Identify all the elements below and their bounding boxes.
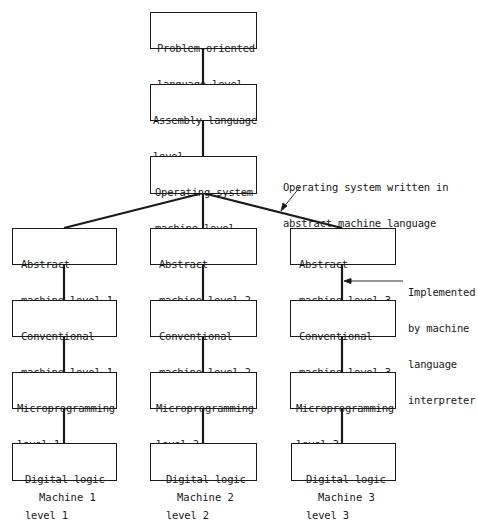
annotation-line: language [408, 358, 475, 370]
interpreter-annotation: Implemented by machine language interpre… [408, 262, 475, 418]
box-line: level 2 [166, 509, 256, 521]
box-line: Assembly language [153, 114, 256, 126]
microprogramming-level-2-box: Microprogramming level 2 [150, 372, 257, 409]
machine-3-label: Machine 3 [318, 491, 375, 503]
machine-1-label: Machine 1 [39, 491, 96, 503]
os-written-annotation: Operating system written in abstract mac… [283, 157, 448, 241]
digital-logic-level-2-box: Digital logic level 2 [150, 443, 257, 481]
abstract-machine-level-2-box: Abstract machine level 2 [150, 228, 257, 265]
conventional-machine-level-3-box: Conventional machine level 3 [290, 300, 396, 337]
annotation-line: abstract machine language [283, 217, 448, 229]
microprogramming-level-1-box: Microprogramming level 1 [12, 372, 117, 409]
box-line: Abstract [299, 258, 395, 270]
box-line: Digital logic [306, 473, 395, 485]
box-line: Abstract [159, 258, 256, 270]
annotation-line: Operating system written in [283, 181, 448, 193]
box-line: Conventional [21, 330, 116, 342]
operating-system-machine-level-box: Operating system machine level [150, 156, 257, 194]
assembly-language-level-box: Assembly language level [150, 84, 257, 121]
annotation-line: interpreter [408, 394, 475, 406]
digital-logic-level-3-box: Digital logic level 3 [291, 443, 396, 481]
box-line: Digital logic [166, 473, 256, 485]
machine-2-label: Machine 2 [177, 491, 234, 503]
annotation-line: by machine [408, 322, 475, 334]
annotation-line: Implemented [408, 286, 475, 298]
box-line: level 1 [25, 509, 116, 521]
box-line: Abstract [21, 258, 116, 270]
digital-logic-level-1-box: Digital logic level 1 [12, 443, 117, 481]
box-line: Conventional [299, 330, 395, 342]
box-line: Problem-oriented [157, 42, 256, 54]
box-line: level 3 [306, 509, 395, 521]
box-line: Microprogramming [296, 402, 395, 414]
abstract-machine-level-1-box: Abstract machine level 1 [12, 228, 117, 265]
box-line: Conventional [159, 330, 256, 342]
box-line: Digital logic [25, 473, 116, 485]
conventional-machine-level-2-box: Conventional machine level 2 [150, 300, 257, 337]
box-line: Operating system [155, 186, 256, 198]
box-line: Microprogramming [156, 402, 256, 414]
conventional-machine-level-1-box: Conventional machine level 1 [12, 300, 117, 337]
box-line: Microprogramming [17, 402, 116, 414]
problem-oriented-language-level-box: Problem-oriented language level [150, 12, 257, 49]
microprogramming-level-3-box: Microprogramming level 3 [290, 372, 396, 409]
